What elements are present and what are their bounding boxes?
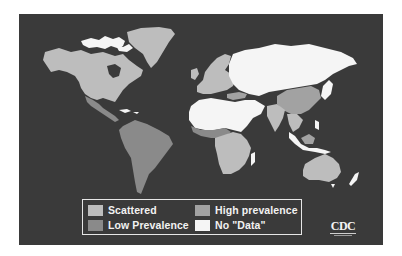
legend-swatch-no-data xyxy=(195,220,210,231)
region-arctic-islands xyxy=(81,36,133,52)
cdc-logo-rule xyxy=(330,233,356,234)
region-tasmania xyxy=(331,184,335,188)
legend-item-low-prevalence: Low Prevalence xyxy=(88,218,189,232)
region-southern-africa xyxy=(215,132,251,174)
cdc-logo-text: CDC xyxy=(328,220,358,232)
region-uk xyxy=(191,68,199,80)
region-indonesia xyxy=(301,134,315,144)
legend-item-high-prevalence: High prevalence xyxy=(195,203,298,217)
region-north-america xyxy=(43,48,143,102)
region-north-africa-middle-east xyxy=(189,98,265,132)
cdc-logo-subtext xyxy=(334,235,352,236)
region-philippines xyxy=(315,120,319,130)
region-new-zealand xyxy=(349,172,359,186)
legend-item-no-data: No "Data" xyxy=(195,218,266,232)
legend-label: High prevalence xyxy=(215,204,298,216)
legend-label: Scattered xyxy=(108,204,157,216)
region-turkey xyxy=(227,92,247,100)
legend-label: No "Data" xyxy=(215,219,266,231)
legend-swatch-scattered xyxy=(88,205,103,216)
region-australia xyxy=(303,154,341,182)
region-caribbean xyxy=(119,109,139,114)
region-south-america xyxy=(119,120,173,194)
legend-swatch-high-prevalence xyxy=(195,205,210,216)
region-japan xyxy=(321,80,333,100)
region-madagascar xyxy=(251,152,255,166)
legend-label: Low Prevalence xyxy=(108,219,189,231)
region-india xyxy=(267,104,285,132)
map-legend: Scattered Low Prevalence High prevalence… xyxy=(82,199,302,235)
region-greenland xyxy=(127,27,175,68)
region-russia xyxy=(229,44,357,96)
legend-item-scattered: Scattered xyxy=(88,203,157,217)
region-southeast-asia xyxy=(287,114,303,132)
cdc-logo: CDC xyxy=(328,220,358,236)
map-panel: Scattered Low Prevalence High prevalence… xyxy=(19,14,383,245)
legend-swatch-low-prevalence xyxy=(88,220,103,231)
